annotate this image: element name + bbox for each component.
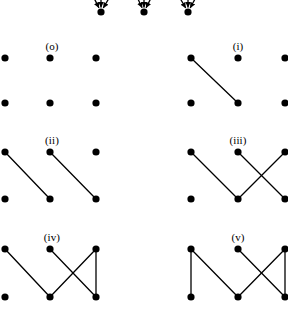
graph-node	[92, 195, 99, 202]
graph-node	[184, 8, 191, 15]
graph-node	[281, 99, 288, 106]
graph-edge	[5, 249, 50, 297]
panel-ii	[1, 148, 99, 202]
arrow-edge	[146, 0, 157, 8]
graph-node	[92, 245, 99, 252]
panel-v	[187, 245, 288, 300]
graph-node	[1, 293, 8, 300]
graph-node	[187, 148, 194, 155]
panel-iv	[1, 245, 99, 300]
graph-figure: (o)(i)(ii)(iii)(iv)(v)	[0, 0, 288, 323]
graph-node	[234, 54, 241, 61]
graph-node	[234, 195, 241, 202]
arrow-edge	[132, 0, 142, 8]
graph-node	[1, 195, 8, 202]
panel-label-i: (i)	[233, 41, 244, 52]
graph-edge	[191, 249, 238, 297]
cropped-arrow-row	[88, 0, 202, 16]
graph-node	[187, 54, 194, 61]
graph-edge	[5, 152, 50, 199]
graph-node	[1, 54, 8, 61]
panel-label-iii: (iii)	[230, 135, 247, 146]
panel-label-o: (o)	[45, 41, 58, 52]
graph-node	[46, 148, 53, 155]
graph-node	[1, 99, 8, 106]
graph-node	[46, 245, 53, 252]
panel-label-v: (v)	[231, 232, 244, 243]
arrow-edge	[190, 0, 202, 8]
arrow-edge	[88, 0, 99, 8]
graph-node	[140, 8, 147, 15]
graph-node	[46, 293, 53, 300]
graph-node	[92, 148, 99, 155]
graph-edge	[191, 152, 238, 199]
graph-node	[187, 99, 194, 106]
graph-node	[1, 245, 8, 252]
graph-node	[92, 99, 99, 106]
graph-node	[46, 195, 53, 202]
panel-i	[187, 54, 288, 106]
graph-node	[281, 54, 288, 61]
graph-node	[234, 148, 241, 155]
graph-node	[46, 54, 53, 61]
graph-node	[92, 54, 99, 61]
panel-label-ii: (ii)	[45, 135, 59, 146]
graph-node	[187, 245, 194, 252]
graph-node	[46, 99, 53, 106]
graph-node	[234, 293, 241, 300]
panel-o	[1, 54, 99, 106]
graph-node	[187, 293, 194, 300]
graph-node	[234, 245, 241, 252]
panel-graphs	[1, 54, 288, 300]
graph-node	[92, 293, 99, 300]
graph-canvas	[0, 0, 288, 323]
arrow-edge	[173, 0, 186, 8]
graph-edge	[191, 58, 238, 103]
graph-node	[1, 148, 8, 155]
graph-node	[234, 99, 241, 106]
arrow-edge	[103, 0, 116, 8]
graph-node	[187, 195, 194, 202]
graph-edge	[50, 152, 96, 199]
panel-iii	[187, 148, 288, 202]
graph-node	[97, 8, 104, 15]
panel-label-iv: (iv)	[44, 232, 60, 243]
